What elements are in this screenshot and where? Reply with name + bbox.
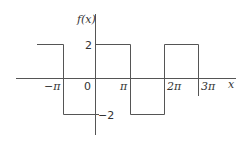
x-tick-label-2pi: 2π xyxy=(166,80,182,93)
x-tick-label-zero: 0 xyxy=(84,80,91,93)
y-tick-label-2: 2 xyxy=(85,39,92,52)
square-wave-line-2 xyxy=(96,45,199,115)
x-axis-label: x xyxy=(228,78,235,91)
y-tick-label-neg2: −2 xyxy=(98,109,114,122)
y-axis-label: f(x) xyxy=(76,13,96,26)
square-wave-chart: f(x) x 2 −2 −π 0 π 2π 3π xyxy=(0,0,247,141)
x-tick-label-pi: π xyxy=(119,80,128,93)
x-tick-label-3pi: 3π xyxy=(201,80,216,93)
x-tick-label-neg-pi: −π xyxy=(44,80,61,93)
